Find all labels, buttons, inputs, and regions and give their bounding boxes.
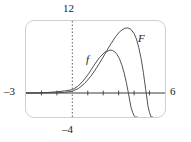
x-axis-min-label: –3 [4, 86, 15, 97]
graph-figure: 12 –4 –3 6 f F [0, 0, 191, 142]
curve-label-f: f [86, 54, 89, 65]
y-axis-max-label: 12 [63, 3, 74, 14]
y-axis-min-label: –4 [62, 124, 73, 135]
plot-canvas [0, 0, 191, 142]
curve-f [26, 50, 137, 117]
curve-label-F: F [138, 33, 145, 44]
x-axis-max-label: 6 [170, 86, 176, 97]
